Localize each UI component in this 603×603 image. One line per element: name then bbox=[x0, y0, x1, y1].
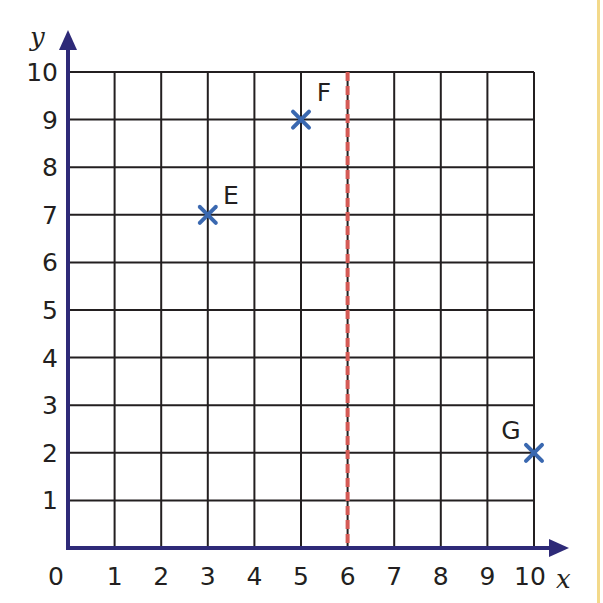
x-tick-label: 6 bbox=[340, 562, 356, 591]
point-label: E bbox=[223, 181, 239, 210]
y-tick-label: 9 bbox=[42, 106, 58, 135]
x-tick-label: 9 bbox=[479, 562, 495, 591]
x-tick-labels: 012345678910 bbox=[48, 562, 546, 591]
x-tick-label: 8 bbox=[433, 562, 449, 591]
y-tick-label: 5 bbox=[42, 296, 58, 325]
x-axis-label: x bbox=[556, 564, 571, 594]
data-points: EFG bbox=[200, 78, 542, 461]
y-tick-label: 6 bbox=[42, 248, 58, 277]
x-tick-label: 1 bbox=[107, 562, 123, 591]
axes bbox=[59, 30, 569, 557]
page-edge-line bbox=[597, 0, 600, 603]
x-axis-arrow-icon bbox=[549, 539, 569, 557]
point-label: G bbox=[501, 416, 520, 445]
data-point-g: G bbox=[501, 416, 542, 461]
data-point-e: E bbox=[200, 181, 239, 223]
x-tick-label: 10 bbox=[514, 562, 546, 591]
grid-lines bbox=[68, 72, 534, 548]
y-tick-label: 2 bbox=[42, 439, 58, 468]
x-tick-label: 0 bbox=[48, 562, 64, 591]
x-tick-label: 2 bbox=[153, 562, 169, 591]
point-label: F bbox=[317, 78, 331, 107]
x-tick-label: 5 bbox=[293, 562, 309, 591]
y-tick-labels: 12345678910 bbox=[26, 58, 58, 515]
y-tick-label: 10 bbox=[26, 58, 58, 87]
x-tick-label: 7 bbox=[386, 562, 402, 591]
coordinate-grid-chart: 012345678910 12345678910 x y EFG bbox=[0, 0, 603, 603]
y-tick-label: 8 bbox=[42, 153, 58, 182]
y-tick-label: 7 bbox=[42, 201, 58, 230]
y-tick-label: 1 bbox=[42, 486, 58, 515]
y-axis-arrow-icon bbox=[59, 30, 77, 50]
y-tick-label: 4 bbox=[42, 344, 58, 373]
x-tick-label: 3 bbox=[200, 562, 216, 591]
y-axis-label: y bbox=[29, 22, 45, 52]
x-tick-label: 4 bbox=[246, 562, 262, 591]
y-tick-label: 3 bbox=[42, 391, 58, 420]
